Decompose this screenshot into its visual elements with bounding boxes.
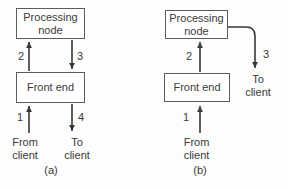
arrow-b-processing-to-client-icon — [228, 27, 255, 68]
processing-node-box-a: Processing node — [16, 8, 85, 39]
caption-b: (b) — [185, 164, 215, 176]
processing-node-label-a: Processing node — [18, 11, 83, 37]
caption-a: (a) — [36, 164, 66, 176]
from-client-label-b: From client — [180, 136, 213, 161]
to-client-label-b: To client — [241, 73, 275, 98]
arrow-label-3-a: 3 — [75, 51, 85, 62]
processing-node-label-b: Processing node — [167, 12, 226, 38]
arrow-label-1-a: 1 — [15, 112, 25, 123]
arrow-label-2-a: 2 — [16, 51, 26, 62]
arrow-label-3-b: 3 — [261, 49, 271, 60]
arrow-label-4-a: 4 — [76, 112, 86, 123]
front-end-label-b: Front end — [173, 81, 220, 94]
from-client-label-a: From client — [8, 136, 42, 161]
processing-node-box-b: Processing node — [165, 10, 228, 39]
arrow-label-2-b: 2 — [184, 51, 194, 62]
front-end-box-b: Front end — [164, 73, 230, 102]
front-end-box-a: Front end — [16, 72, 85, 103]
to-client-label-a: To client — [60, 136, 94, 161]
arrow-label-1-b: 1 — [181, 112, 191, 123]
front-end-label-a: Front end — [27, 81, 74, 94]
